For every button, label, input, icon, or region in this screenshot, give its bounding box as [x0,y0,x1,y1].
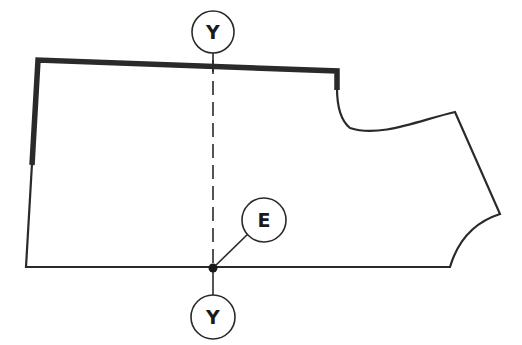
top-y-label: Y [205,21,220,43]
bold-top-edge [32,60,337,165]
point-e-marker: E [242,198,286,242]
pattern-diagram: Y E Y [0,0,522,345]
bottom-y-label: Y [205,306,220,328]
bottom-y-marker: Y [191,295,235,339]
point-e-label: E [258,209,271,231]
point-e-dot [209,264,218,273]
point-e-leader [213,232,250,268]
top-y-marker: Y [192,11,234,53]
